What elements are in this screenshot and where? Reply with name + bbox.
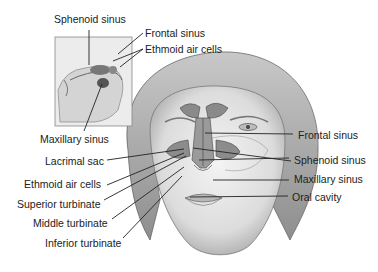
label-oral-cavity: Oral cavity [292,191,342,203]
label-maxillary-sinus: Maxillary sinus [294,173,363,185]
label-middle-turbinate: Middle turbinate [33,217,108,229]
label-inset-frontal-sinus: Frontal sinus [145,27,205,39]
sinus-diagram: Sphenoid sinus Frontal sinus Ethmoid air… [0,0,378,272]
label-frontal-sinus: Frontal sinus [298,129,358,141]
label-inset-sphenoid-sinus: Sphenoid sinus [54,13,126,25]
label-sphenoid-sinus: Sphenoid sinus [294,154,366,166]
label-ethmoid-air-cells: Ethmoid air cells [24,178,101,190]
label-inset-ethmoid-air-cells: Ethmoid air cells [145,43,222,55]
label-inset-maxillary-sinus: Maxillary sinus [40,133,109,145]
label-superior-turbinate: Superior turbinate [17,198,100,210]
label-lacrimal-sac: Lacrimal sac [45,155,104,167]
label-inferior-turbinate: Inferior turbinate [45,237,121,249]
